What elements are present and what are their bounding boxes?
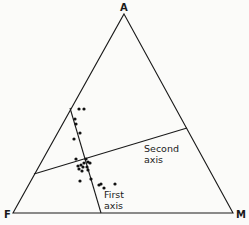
data-points	[72, 107, 116, 189]
ternary-diagram: A F M Second axis First axis	[0, 0, 249, 225]
data-point	[85, 165, 88, 168]
data-point	[74, 157, 77, 160]
data-point	[74, 122, 77, 125]
second-axis-label-line1: Second	[144, 143, 179, 154]
data-point	[73, 117, 76, 120]
ternary-triangle	[13, 14, 233, 213]
data-point	[82, 107, 85, 110]
data-point	[113, 182, 116, 185]
vertex-label-m: M	[236, 209, 246, 220]
data-point	[86, 168, 89, 171]
data-point	[78, 131, 81, 134]
second-axis-label-line2: axis	[144, 154, 163, 165]
vertex-label-a: A	[120, 2, 128, 13]
data-point	[78, 179, 81, 182]
data-point	[84, 157, 87, 160]
first-axis-label-line2: axis	[104, 200, 123, 211]
data-point	[99, 182, 102, 185]
data-point	[88, 161, 91, 164]
data-point	[89, 177, 92, 180]
data-point	[77, 107, 80, 110]
data-point	[81, 165, 84, 168]
first-axis-label-line1: First	[104, 189, 124, 200]
data-point	[76, 164, 79, 167]
vertex-label-f: F	[4, 209, 11, 220]
data-point	[80, 169, 83, 172]
data-point	[77, 167, 80, 170]
data-point	[82, 161, 85, 164]
data-point	[72, 137, 75, 140]
